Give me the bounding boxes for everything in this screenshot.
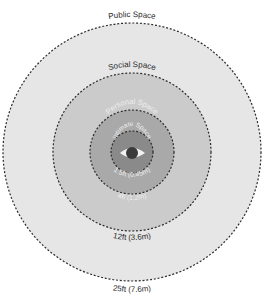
proxemics-diagram: Public Space Social Space Personal Space… <box>0 0 269 303</box>
label-public-space: Public Space <box>108 10 157 21</box>
label-distance-public: 25ft (7.6m) <box>112 284 151 294</box>
